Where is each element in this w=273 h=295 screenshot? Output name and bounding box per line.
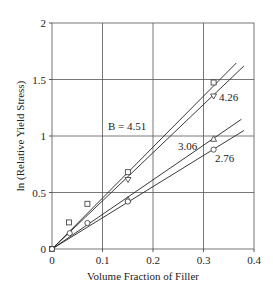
circle-marker bbox=[85, 220, 90, 225]
y-axis-label: ln (Relative Yield Stress) bbox=[14, 80, 27, 191]
square-marker bbox=[85, 201, 90, 206]
y-tick-1.5: 1.5 bbox=[32, 74, 46, 86]
circle-marker bbox=[67, 231, 72, 236]
y-tick-2: 2 bbox=[41, 17, 47, 29]
y-tick-1: 1 bbox=[41, 130, 47, 142]
y-axis-ticks bbox=[49, 23, 52, 249]
annotation-426: 4.26 bbox=[219, 91, 239, 103]
square-marker bbox=[125, 170, 130, 175]
y-tick-0: 0 bbox=[41, 243, 47, 255]
annotation-276: 2.76 bbox=[215, 152, 235, 164]
annotation-b451: B = 4.51 bbox=[108, 120, 146, 132]
fit-line-4.51 bbox=[52, 63, 236, 249]
square-marker bbox=[211, 80, 216, 85]
circle-marker bbox=[125, 199, 130, 204]
circle-marker bbox=[49, 246, 54, 251]
x-tick-0.3: 0.3 bbox=[197, 254, 211, 266]
x-axis-ticks bbox=[52, 249, 254, 252]
grid bbox=[52, 23, 254, 249]
x-tick-0: 0 bbox=[49, 254, 55, 266]
x-tick-0.2: 0.2 bbox=[146, 254, 160, 266]
x-axis-label: Volume Fraction of Filler bbox=[87, 270, 199, 282]
square-marker bbox=[67, 220, 72, 225]
x-tick-0.1: 0.1 bbox=[96, 254, 110, 266]
annotation-306: 3.06 bbox=[178, 140, 198, 152]
inverted-triangle-marker bbox=[125, 178, 131, 183]
chart-plot: 0 0.5 1 1.5 2 0 0.1 0.2 0.3 0.4 Volume F… bbox=[0, 0, 273, 295]
markers-inverted-triangles bbox=[125, 94, 217, 183]
y-tick-0.5: 0.5 bbox=[32, 187, 46, 199]
x-tick-0.4: 0.4 bbox=[247, 254, 261, 266]
